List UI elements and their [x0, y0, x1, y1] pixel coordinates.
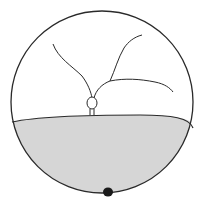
- gray-lower-region: [0, 115, 194, 204]
- diagram-svg: [0, 0, 205, 204]
- right-branching-line: [94, 35, 142, 98]
- black-dot: [103, 188, 113, 197]
- left-curved-line: [53, 44, 92, 98]
- diagram-canvas: [0, 0, 205, 204]
- small-loop: [87, 97, 97, 109]
- right-branch-arm: [110, 79, 173, 92]
- loop-stem: [90, 109, 94, 115]
